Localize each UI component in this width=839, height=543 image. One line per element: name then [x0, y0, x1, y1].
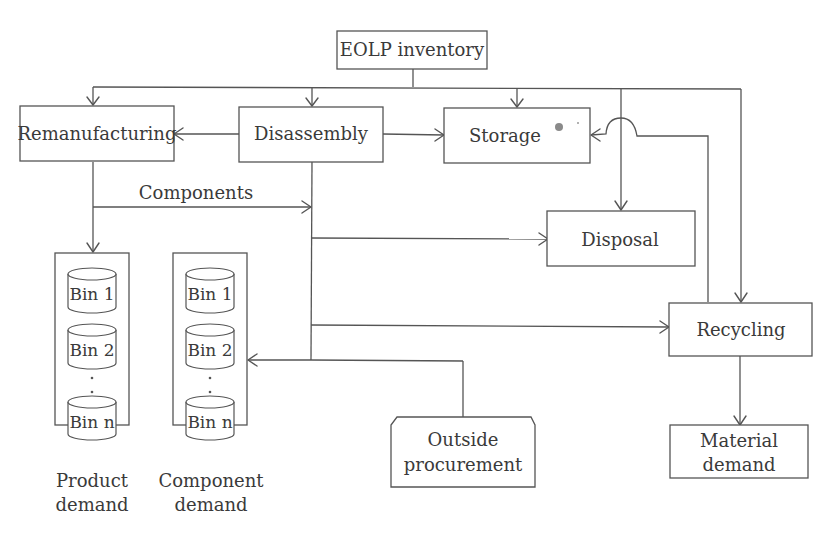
component-demand-caption-line2: demand — [174, 494, 247, 515]
node-storage: Storage — [444, 108, 590, 163]
material-demand-line2: demand — [702, 454, 775, 475]
outside-procurement-line1: Outside — [428, 429, 499, 450]
ellipsis-dot — [91, 377, 94, 380]
storage-label: Storage — [469, 125, 541, 146]
ellipsis-dot — [209, 377, 212, 380]
bin-label: Bin n — [69, 412, 114, 432]
bin-cylinder: Bin 1 — [68, 268, 116, 313]
product-demand-caption-line2: demand — [55, 494, 128, 515]
node-remanufacturing: Remanufacturing — [18, 106, 177, 161]
product-demand-stack: Bin 1 Bin 2 Bin n — [55, 253, 129, 440]
bin-label: Bin 2 — [69, 340, 114, 360]
bin-cylinder: Bin 1 — [186, 268, 234, 313]
disassembly-to-storage-line — [383, 134, 444, 135]
top-bus-line — [93, 87, 741, 89]
material-demand-line1: Material — [700, 430, 778, 451]
ellipsis-dot — [209, 391, 212, 394]
disassembly-trunk-line — [311, 162, 312, 360]
component-demand-stack: Bin 1 Bin 2 Bin n — [173, 253, 247, 440]
bin-label: Bin 1 — [187, 284, 232, 304]
ink-spot — [555, 123, 563, 131]
eolp-flow-diagram: EOLP inventory Remanufacturing Disassemb… — [0, 0, 839, 543]
recycling-label: Recycling — [696, 319, 785, 340]
trunk-to-disposal-line — [311, 238, 548, 239]
recycling-to-storage-line — [591, 118, 708, 302]
component-demand-caption-line1: Component — [158, 470, 264, 491]
ink-spot — [577, 122, 579, 124]
ellipsis-dot — [91, 391, 94, 394]
procurement-connector-line — [311, 360, 463, 361]
outside-procurement-line2: procurement — [404, 454, 523, 475]
node-outside-procurement: Outside procurement — [391, 417, 535, 487]
node-disassembly: Disassembly — [239, 107, 383, 162]
node-material-demand: Material demand — [670, 425, 808, 478]
product-demand-caption-line1: Product — [56, 470, 129, 491]
bin-cylinder: Bin 2 — [186, 324, 234, 369]
bin-label: Bin 2 — [187, 340, 232, 360]
bin-cylinder: Bin n — [186, 396, 234, 440]
remanufacturing-label: Remanufacturing — [18, 123, 177, 144]
node-recycling: Recycling — [669, 303, 812, 356]
eolp-inventory-label: EOLP inventory — [340, 39, 485, 60]
components-edge-label: Components — [139, 182, 253, 203]
trunk-to-recycling-line — [311, 325, 669, 327]
bin-cylinder: Bin n — [68, 396, 116, 440]
disassembly-label: Disassembly — [254, 123, 369, 144]
bin-cylinder: Bin 2 — [68, 324, 116, 369]
node-eolp-inventory: EOLP inventory — [337, 31, 487, 69]
disposal-label: Disposal — [581, 229, 659, 250]
bin-label: Bin n — [187, 412, 232, 432]
node-disposal: Disposal — [547, 211, 695, 266]
bin-label: Bin 1 — [69, 284, 114, 304]
